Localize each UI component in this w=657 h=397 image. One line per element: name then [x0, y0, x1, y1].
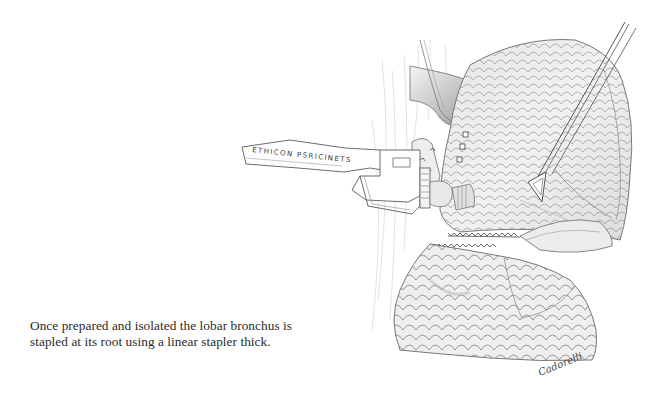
figure-page: ETHICON PSRICINETS — [0, 0, 657, 397]
lower-lung-lobe — [394, 244, 597, 361]
figure-caption: Once prepared and isolated the lobar bro… — [30, 318, 350, 350]
staple-line-upper — [448, 233, 520, 237]
stapler-window — [393, 158, 410, 167]
caption-line-2: stapled at its root using a linear stapl… — [30, 334, 350, 350]
caption-line-1: Once prepared and isolated the lobar bro… — [30, 318, 350, 334]
